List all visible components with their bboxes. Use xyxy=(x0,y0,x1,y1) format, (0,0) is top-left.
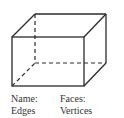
rectangular-prism-diagram xyxy=(0,0,124,92)
edges-label: Edges xyxy=(11,105,35,116)
name-label: Name: xyxy=(11,93,38,104)
edge-top-left-diagonal xyxy=(12,14,35,37)
edge-bottom-right-diagonal xyxy=(84,63,106,86)
vertices-label: Vertices xyxy=(60,105,92,116)
front-face xyxy=(12,37,84,86)
edge-top-right-diagonal xyxy=(84,14,106,37)
faces-label: Faces: xyxy=(60,93,86,104)
hidden-edge-bottom-left-diagonal xyxy=(12,63,35,86)
